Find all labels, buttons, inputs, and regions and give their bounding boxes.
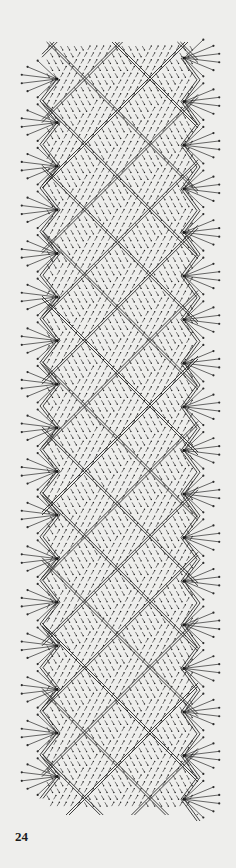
lace-pricking-diagram [0, 0, 236, 868]
right-fan-edging [181, 39, 220, 821]
left-fan-edging [21, 60, 60, 799]
ground-dashes [47, 45, 193, 806]
diagonal-lattice [42, 42, 198, 815]
page-number: 24 [15, 829, 28, 845]
